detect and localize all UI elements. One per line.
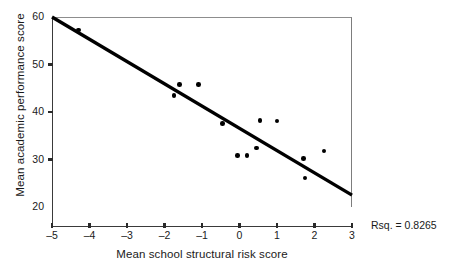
x-axis-tick-label: –4 [75, 229, 105, 241]
x-axis-tick-label: –1 [187, 229, 217, 241]
y-axis-tick-mark [48, 158, 53, 160]
x-axis-tick-mark [126, 223, 128, 228]
x-axis-tick-mark [88, 223, 90, 228]
r-squared-annotation: Rsq. = 0.8265 [371, 219, 437, 231]
data-point [220, 121, 225, 126]
x-axis-tick-mark [163, 223, 165, 228]
data-point [301, 156, 306, 161]
data-point [196, 82, 201, 87]
data-point [177, 82, 182, 87]
x-axis-tick-label: –3 [112, 229, 142, 241]
y-axis-tick-label: 50 [20, 58, 44, 70]
x-axis-tick-mark [201, 223, 203, 228]
x-axis-tick-label: –2 [150, 229, 180, 241]
data-point [76, 28, 81, 33]
x-axis-tick-mark [313, 223, 315, 228]
y-axis-tick-label: 60 [20, 10, 44, 22]
y-axis-tick-label: 40 [20, 105, 44, 117]
x-axis-tick-label: 2 [300, 229, 330, 241]
y-axis-tick-mark [48, 111, 53, 113]
x-axis-tick-mark [276, 223, 278, 228]
x-axis-tick-label: 3 [337, 229, 367, 241]
data-point [172, 93, 177, 98]
x-axis-tick-label: 1 [262, 229, 292, 241]
scatter-plot-figure: Mean academic performance score Mean sch… [0, 0, 452, 276]
y-axis-tick-mark [48, 63, 53, 65]
x-axis-tick-mark [51, 223, 53, 228]
y-axis-tick-label: 20 [20, 200, 44, 212]
y-axis-tick-label: 30 [20, 153, 44, 165]
data-point [235, 153, 240, 158]
x-axis-tick-mark [238, 223, 240, 228]
x-axis-tick-mark [351, 223, 353, 228]
x-axis-tick-label: –5 [37, 229, 67, 241]
x-axis-tick-label: 0 [225, 229, 255, 241]
plot-area [52, 17, 352, 207]
x-axis-label: Mean school structural risk score [52, 248, 352, 260]
data-point [254, 146, 259, 151]
